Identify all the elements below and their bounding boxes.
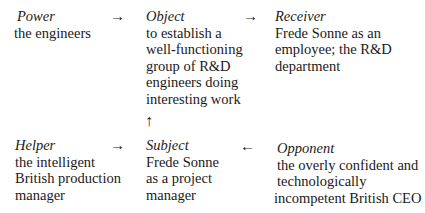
object-text-line: to establish a: [146, 25, 243, 42]
opponent-label: Opponent: [277, 140, 421, 157]
power-text-line: the engineers: [14, 25, 91, 42]
helper-label: Helper: [15, 137, 121, 154]
actant-helper: Helper the intelligent British productio…: [15, 137, 121, 203]
subject-text-line: manager: [146, 187, 219, 204]
subject-text-line: as a project: [146, 170, 219, 187]
object-text-line: interesting work: [146, 91, 243, 108]
opponent-text-line: technologically: [277, 173, 421, 190]
actant-object: Object to establish a well-functioning g…: [146, 8, 243, 107]
helper-text-line: manager: [15, 187, 121, 204]
actant-subject: Subject Frede Sonne as a project manager: [146, 137, 219, 203]
receiver-text-line: department: [275, 58, 392, 75]
opponent-text-line: the overly confident and: [277, 157, 421, 174]
subject-text-line: Frede Sonne: [146, 154, 219, 171]
arrow-helper-to-subject-icon: →: [110, 137, 125, 153]
subject-label: Subject: [146, 137, 219, 154]
actant-power: Power the engineers: [17, 8, 91, 41]
receiver-text-line: Frede Sonne as an: [275, 25, 392, 42]
arrow-object-to-receiver-icon: →: [243, 8, 258, 24]
arrow-subject-to-object-icon: ↑: [145, 113, 153, 129]
arrow-power-to-object-icon: →: [110, 8, 125, 24]
helper-text-line: British production: [15, 170, 121, 187]
object-text-line: well-functioning: [146, 41, 243, 58]
arrow-opponent-to-subject-icon: ←: [240, 138, 255, 154]
actant-opponent: Opponent the overly confident and techno…: [277, 140, 421, 206]
object-text-line: group of R&D: [146, 58, 243, 75]
power-label: Power: [17, 8, 91, 25]
object-text-line: engineers doing: [146, 74, 243, 91]
actant-receiver: Receiver Frede Sonne as an employee; the…: [275, 8, 392, 74]
receiver-label: Receiver: [275, 8, 392, 25]
receiver-text-line: employee; the R&D: [275, 41, 392, 58]
opponent-text-line: incompetent British CEO: [274, 190, 421, 207]
object-label: Object: [146, 8, 243, 25]
helper-text-line: the intelligent: [15, 154, 121, 171]
